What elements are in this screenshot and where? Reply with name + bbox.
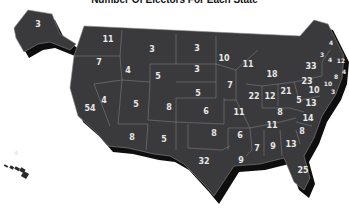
state-label-indiana: 12 — [264, 93, 275, 101]
state-label-delaware: 3 — [331, 89, 335, 95]
state-label-nebraska: 5 — [195, 90, 201, 98]
us-map — [0, 0, 349, 214]
state-label-south-carolina: 8 — [299, 128, 305, 136]
state-label-wyoming: 5 — [155, 73, 161, 81]
state-label-kansas: 6 — [203, 108, 209, 116]
state-label-florida: 25 — [297, 167, 308, 175]
state-label-rhode-island: 4 — [342, 69, 346, 75]
state-label-illinois: 22 — [248, 93, 259, 101]
state-label-north-dakota: 3 — [194, 45, 200, 53]
state-label-montana: 3 — [149, 46, 155, 54]
state-label-minnesota: 10 — [218, 55, 229, 63]
state-label-alaska: 3 — [35, 21, 41, 29]
state-label-maryland: 10 — [324, 81, 332, 87]
state-label-new-york: 33 — [305, 63, 316, 71]
state-label-pennsylvania: 23 — [301, 78, 312, 86]
state-label-kentucky: 8 — [277, 109, 283, 117]
state-label-arizona: 8 — [129, 134, 135, 142]
state-label-tennessee: 11 — [266, 122, 277, 130]
state-label-oregon: 7 — [96, 59, 102, 67]
state-label-massachusetts: 12 — [337, 58, 345, 64]
state-label-south-dakota: 3 — [194, 66, 200, 74]
state-label-north-carolina: 14 — [302, 115, 313, 123]
state-label-alabama: 9 — [270, 143, 276, 151]
state-label-wisconsin: 11 — [242, 61, 253, 69]
state-label-nevada: 4 — [101, 97, 107, 105]
state-label-oklahoma: 8 — [211, 130, 217, 138]
state-label-missouri: 11 — [233, 109, 244, 117]
state-label-california: 54 — [84, 105, 95, 113]
state-label-utah: 5 — [133, 101, 139, 109]
state-label-vermont: 3 — [320, 52, 324, 58]
state-label-iowa: 7 — [227, 82, 233, 90]
state-label-connecticut: 8 — [334, 74, 338, 80]
state-label-hawaii: 4 — [14, 150, 18, 156]
state-label-arkansas: 6 — [237, 132, 243, 140]
state-label-new-hampshire: 4 — [328, 57, 332, 63]
state-label-idaho: 4 — [125, 67, 131, 75]
state-label-ohio: 21 — [280, 88, 291, 96]
state-label-michigan: 18 — [266, 71, 277, 79]
state-label-texas: 32 — [198, 158, 209, 166]
state-label-georgia: 13 — [285, 141, 296, 149]
state-label-washington: 11 — [102, 36, 113, 44]
state-label-colorado: 8 — [166, 104, 172, 112]
state-label-louisiana: 9 — [238, 157, 244, 165]
state-label-mississippi: 7 — [254, 145, 260, 153]
state-label-west-virginia: 5 — [296, 97, 302, 105]
state-label-new-mexico: 5 — [161, 136, 167, 144]
state-label-virginia: 13 — [305, 100, 316, 108]
state-label-new-jersey: 10 — [308, 87, 319, 95]
state-label-maine: 4 — [329, 40, 333, 46]
